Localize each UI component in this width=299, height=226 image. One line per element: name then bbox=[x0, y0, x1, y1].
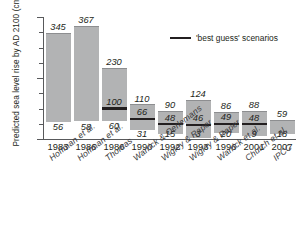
x-axis-year-labels: 198319861986199019921993199620012007 bbox=[44, 141, 296, 155]
best-guess-line bbox=[158, 123, 183, 125]
bar-range bbox=[46, 33, 71, 122]
bar-group: 5918 bbox=[270, 17, 295, 139]
bar-group: 10023060 bbox=[102, 17, 127, 139]
bar-group: 36758 bbox=[74, 17, 99, 139]
best-guess-line bbox=[186, 124, 211, 126]
y-tick-400 bbox=[37, 17, 43, 18]
y-tick-250 bbox=[39, 63, 43, 64]
bar-group: 34556 bbox=[46, 17, 71, 139]
y-axis-title: Predicted sea level rise by AD 2100 (cm) bbox=[12, 7, 21, 147]
low-value-label: 18 bbox=[259, 130, 299, 139]
y-tick-100 bbox=[39, 109, 43, 110]
best-guess-line bbox=[214, 123, 239, 125]
best-guess-line bbox=[242, 123, 267, 125]
x-axis-line bbox=[43, 139, 296, 140]
bar-group: 48889 bbox=[242, 17, 267, 139]
y-tick-200 bbox=[37, 78, 43, 79]
y-tick-350 bbox=[39, 32, 43, 33]
plot-area: 3455636758100230606611031489015461243498… bbox=[44, 17, 296, 139]
sea-level-rise-bar-chart: Predicted sea level rise by AD 2100 (cm)… bbox=[0, 0, 299, 226]
y-tick-300 bbox=[39, 48, 43, 49]
x-year-label: 2007 bbox=[265, 141, 299, 152]
y-tick-150 bbox=[39, 93, 43, 94]
high-value-label: 59 bbox=[259, 110, 299, 119]
y-tick-0 bbox=[37, 139, 43, 140]
bar-range bbox=[74, 26, 99, 121]
